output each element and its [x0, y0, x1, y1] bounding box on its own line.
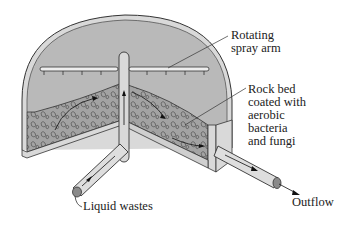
label-outflow: Outflow: [292, 196, 334, 209]
trickling-filter-diagram: Rotating spray arm Rock bed coated with …: [0, 0, 346, 225]
label-liquid-wastes: Liquid wastes: [83, 200, 153, 213]
outflow-pipe: [214, 146, 300, 195]
inflow-pipe: [73, 144, 129, 207]
label-rotating-spray-arm: Rotating spray arm: [231, 29, 281, 55]
label-rock-bed: Rock bed coated with aerobic bacteria an…: [248, 83, 306, 148]
